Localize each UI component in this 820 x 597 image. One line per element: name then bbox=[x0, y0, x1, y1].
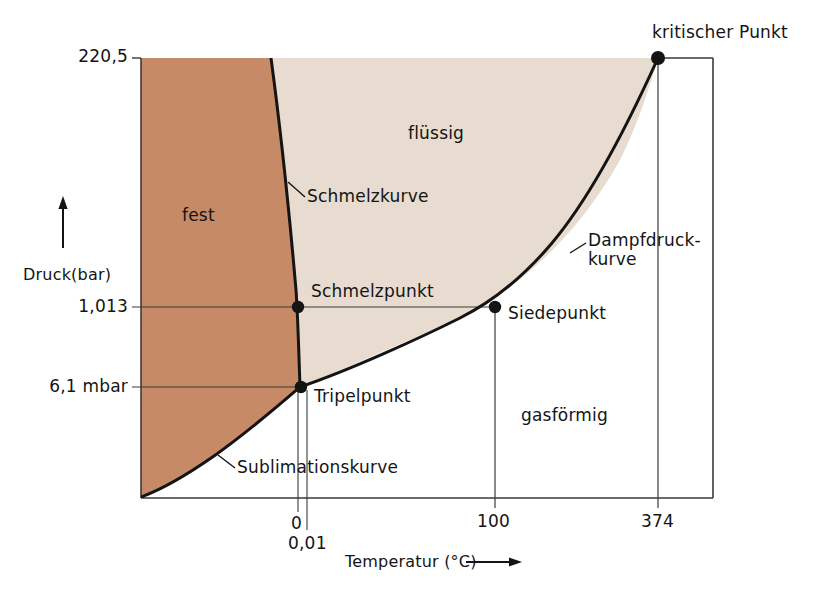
point-kritischer-punkt bbox=[651, 51, 665, 65]
curve-label-schmelzkurve: Schmelzkurve bbox=[307, 186, 429, 206]
region-fest-fill bbox=[141, 58, 300, 497]
point-label-siedepunkt: Siedepunkt bbox=[508, 303, 606, 323]
y-tick-label-61mbar: 6,1 mbar bbox=[18, 376, 128, 396]
region-label-fest: fest bbox=[182, 205, 215, 225]
y-axis-title: Druck(bar) bbox=[23, 265, 111, 284]
point-siedepunkt bbox=[489, 301, 501, 313]
point-label-kritischer-punkt: kritischer Punkt bbox=[652, 22, 788, 42]
y-tick-label-2205: 220,5 bbox=[32, 46, 128, 66]
point-label-tripelpunkt: Tripelpunkt bbox=[314, 386, 411, 406]
point-tripelpunkt bbox=[295, 381, 307, 393]
phase-diagram-figure: 220,5 1,013 6,1 mbar 0 0,01 100 374 Druc… bbox=[0, 0, 820, 597]
region-label-gasfoermig: gasförmig bbox=[521, 405, 608, 425]
x-tick-label-001: 0,01 bbox=[288, 533, 327, 553]
x-axis-title: Temperatur (°C) bbox=[345, 552, 477, 571]
leader-dampfdruckkurve bbox=[570, 243, 586, 253]
region-fluessig-fill bbox=[271, 58, 658, 387]
x-tick-label-374: 374 bbox=[641, 511, 674, 531]
leader-sublimationskurve bbox=[218, 455, 235, 468]
y-tick-label-1013: 1,013 bbox=[32, 296, 128, 316]
y-axis-arrow bbox=[58, 196, 67, 248]
x-tick-label-100: 100 bbox=[477, 511, 510, 531]
curve-label-dampfdruckkurve: Dampfdruck- kurve bbox=[588, 231, 701, 269]
point-schmelzpunkt bbox=[292, 301, 304, 313]
x-tick-label-0: 0 bbox=[291, 513, 302, 533]
point-label-schmelzpunkt: Schmelzpunkt bbox=[311, 281, 434, 301]
curve-label-sublimationskurve: Sublimationskurve bbox=[237, 457, 398, 477]
region-label-fluessig: flüssig bbox=[408, 123, 464, 143]
